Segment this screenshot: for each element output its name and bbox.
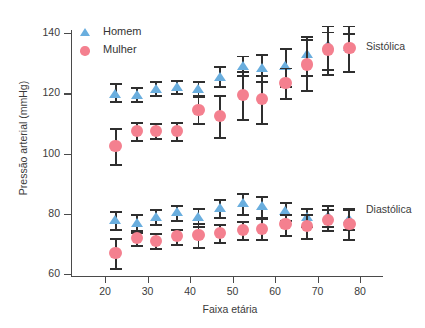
error-bar-cap — [193, 223, 205, 225]
male-data-point — [150, 84, 162, 93]
female-data-point — [131, 125, 143, 137]
legend-label-mulher: Mulher — [103, 43, 137, 55]
error-bar-cap — [343, 239, 355, 241]
error-bar-cap — [256, 196, 268, 198]
error-bar-cap — [280, 48, 292, 50]
error-bar-cap — [150, 224, 162, 226]
female-data-point — [301, 220, 313, 232]
male-data-point — [131, 90, 143, 99]
female-data-point — [256, 93, 268, 105]
error-bar-cap — [237, 214, 249, 216]
error-bar-cap — [193, 123, 205, 125]
x-tick — [233, 277, 234, 283]
error-bar-cap — [110, 164, 122, 166]
error-bar-cap — [171, 80, 183, 82]
error-bar-cap — [110, 229, 122, 231]
error-bar-cap — [237, 119, 249, 121]
male-data-point — [131, 218, 143, 227]
error-bar-cap — [322, 230, 334, 232]
error-bar-cap — [131, 101, 143, 103]
male-data-point — [214, 72, 226, 81]
female-data-point — [322, 43, 334, 55]
error-bar-cap — [237, 71, 249, 73]
y-tick — [64, 274, 71, 275]
error-bar-cap — [214, 137, 226, 139]
female-data-point — [150, 235, 162, 247]
female-data-point — [237, 89, 249, 101]
error-bar-cap — [280, 214, 292, 216]
error-bar-cap — [193, 81, 205, 83]
error-bar-cap — [150, 95, 162, 97]
x-tick — [148, 277, 149, 283]
error-bar-cap — [322, 205, 334, 207]
error-bar-cap — [322, 74, 334, 76]
error-bar-cap — [131, 87, 143, 89]
error-bar-cap — [171, 140, 183, 142]
male-data-point — [150, 212, 162, 221]
female-data-point — [192, 104, 204, 116]
x-axis-line — [71, 276, 383, 277]
female-data-point — [109, 247, 121, 259]
error-bar-cap — [322, 26, 334, 28]
error-bar-cap — [280, 68, 292, 70]
female-data-point — [109, 140, 121, 152]
error-bar-cap — [237, 239, 249, 241]
error-bar-cap — [150, 248, 162, 250]
x-tick-label: 20 — [90, 286, 120, 297]
error-bar-cap — [193, 247, 205, 249]
error-bar-cap — [301, 36, 313, 38]
error-bar-cap — [110, 128, 122, 130]
error-bar-cap — [193, 96, 205, 98]
y-axis-title: Pressão arterial (mmHg) — [17, 53, 29, 223]
error-bar-cap — [256, 75, 268, 77]
y-tick — [64, 154, 71, 155]
female-data-point — [171, 230, 183, 242]
error-bar-cap — [214, 66, 226, 68]
male-data-point — [237, 198, 249, 207]
x-tick — [190, 277, 191, 283]
female-data-point — [279, 77, 291, 89]
female-data-point — [214, 227, 226, 239]
error-bar-cap — [171, 93, 183, 95]
female-data-point — [171, 125, 183, 137]
error-bar-cap — [256, 54, 268, 56]
x-tick-label: 70 — [303, 286, 333, 297]
y-tick — [64, 93, 71, 94]
error-bar-cap — [301, 90, 313, 92]
female-data-point — [131, 232, 143, 244]
male-data-point — [192, 212, 204, 221]
error-bar-cap — [214, 95, 226, 97]
systolic-group-label: Sistólica — [366, 40, 405, 52]
error-bar-cap — [214, 199, 226, 201]
error-bar-cap — [256, 239, 268, 241]
male-data-point — [256, 201, 268, 210]
male-data-point — [214, 203, 226, 212]
error-bar-cap — [214, 217, 226, 219]
x-tick-label: 60 — [260, 286, 290, 297]
error-bar-cap — [301, 208, 313, 210]
diastolic-group-label: Diastólica — [366, 203, 412, 215]
y-axis-line — [71, 30, 72, 277]
x-tick-label: 30 — [133, 286, 163, 297]
x-tick-label: 40 — [175, 286, 205, 297]
error-bar-cap — [110, 268, 122, 270]
x-axis-title: Faixa etária — [140, 303, 320, 315]
error-bar-cap — [110, 101, 122, 103]
error-bar-cap — [110, 83, 122, 85]
error-bar-cap — [110, 238, 122, 240]
error-bar-cap — [343, 71, 355, 73]
y-tick-label: 100 — [32, 148, 60, 159]
y-tick-label: 120 — [32, 87, 60, 98]
female-data-point — [192, 229, 204, 241]
y-tick-label: 140 — [32, 27, 60, 38]
error-bar-cap — [301, 238, 313, 240]
y-tick — [64, 33, 71, 34]
error-bar-cap — [237, 56, 249, 58]
x-tick — [318, 277, 319, 283]
error-bar-cap — [171, 220, 183, 222]
error-bar-cap — [301, 214, 313, 216]
error-bar-cap — [131, 122, 143, 124]
x-tick — [360, 277, 361, 283]
x-tick — [275, 277, 276, 283]
blood-pressure-chart: 1401201008060 20304050607080 Pressão art… — [0, 0, 425, 328]
